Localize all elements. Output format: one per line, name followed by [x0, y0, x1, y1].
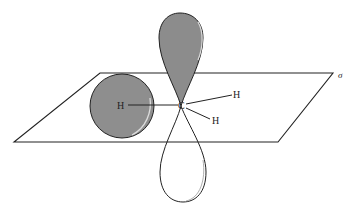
upper-p-lobe	[159, 13, 203, 106]
lower-p-lobe	[160, 106, 206, 202]
hydrogen-label-upper-right: H	[233, 90, 240, 100]
hydrogen-label-left: H	[117, 101, 124, 111]
carbon-label: C	[178, 101, 185, 111]
bond-c-h-upper-right	[186, 95, 232, 104]
diagram-canvas	[0, 0, 352, 206]
hydrogen-label-lower-right: H	[212, 116, 219, 126]
sigma-plane-label: σ	[338, 71, 342, 80]
bond-c-h-lower-right	[186, 108, 210, 119]
